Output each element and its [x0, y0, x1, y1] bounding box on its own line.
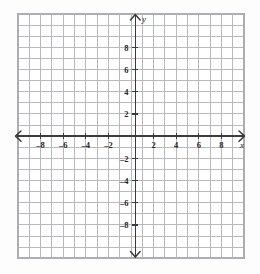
y-tick-label: –8 [119, 220, 129, 230]
y-tick-label: 2 [124, 109, 128, 119]
x-tick-label: 4 [174, 140, 179, 150]
y-tick-label: –4 [119, 176, 129, 186]
y-axis-label: y [141, 14, 146, 24]
y-tick-label: 6 [124, 65, 128, 75]
coordinate-grid-figure: –8 –6 –4 –2 2 4 6 8 8 6 4 2 –2 –4 –6 –8 … [0, 0, 260, 274]
x-tick-label: 6 [197, 140, 201, 150]
x-axis-label: x [239, 140, 244, 150]
x-tick-label: 2 [151, 140, 155, 150]
x-tick-label: –6 [58, 140, 68, 150]
y-tick-label: –6 [119, 198, 129, 208]
coordinate-plane: –8 –6 –4 –2 2 4 6 8 8 6 4 2 –2 –4 –6 –8 … [0, 0, 260, 274]
x-tick-label: 8 [219, 140, 223, 150]
y-tick-label: 8 [124, 43, 128, 53]
x-tick-label: –4 [81, 140, 91, 150]
x-tick-label: –8 [35, 140, 45, 150]
y-tick-label: –2 [119, 154, 129, 164]
x-tick-label: –2 [103, 140, 113, 150]
